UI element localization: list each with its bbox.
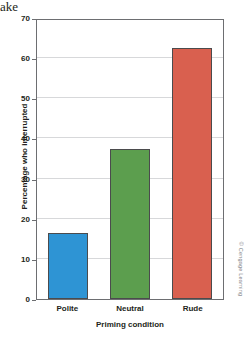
bar-slot <box>161 20 223 299</box>
y-axis-title: Percentage who interrupted <box>20 57 29 257</box>
bar-slot <box>37 20 99 299</box>
bar-slot <box>99 20 161 299</box>
y-axis-tick-group: 010203040506070 <box>0 0 36 338</box>
x-axis-title: Priming condition <box>36 320 224 329</box>
bar-polite <box>48 233 88 299</box>
y-axis-tick-mark <box>32 300 36 301</box>
x-axis-tick-label-polite: Polite <box>36 303 99 317</box>
bar-chart-figure: ake 010203040506070 Percentage who inter… <box>0 0 244 338</box>
copyright-credit: © Cengage Learning <box>238 199 244 338</box>
y-axis-tick-label: 70 <box>21 15 30 23</box>
bar-neutral <box>110 149 150 299</box>
plot-area <box>36 19 224 300</box>
bar-group <box>37 20 223 299</box>
x-axis-tick-label-neutral: Neutral <box>99 303 162 317</box>
bar-rude <box>172 48 212 299</box>
x-axis-tick-label-rude: Rude <box>161 303 224 317</box>
x-axis-tick-group: PoliteNeutralRude <box>36 303 224 317</box>
y-axis-tick-label: 10 <box>21 256 30 264</box>
y-axis-tick-label: 0 <box>26 296 30 304</box>
